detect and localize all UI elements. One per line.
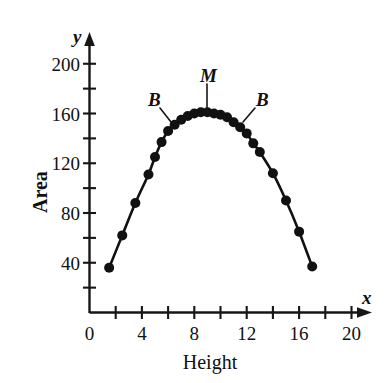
- x-axis: [90, 306, 373, 319]
- data-point: [117, 230, 127, 240]
- x-axis-variable-label: x: [362, 288, 372, 307]
- y-axis: [83, 32, 96, 313]
- x-axis-tick-label: 4: [122, 324, 162, 343]
- data-point: [307, 261, 317, 271]
- y-axis-tick-label: 160: [30, 105, 80, 124]
- data-point: [281, 196, 291, 206]
- y-axis-tick-label: 120: [30, 154, 80, 173]
- x-axis-tick-label: 0: [70, 324, 110, 343]
- data-point: [150, 152, 160, 162]
- y-axis-tick-label: 200: [30, 55, 80, 74]
- data-point: [130, 198, 140, 208]
- data-point: [255, 147, 265, 157]
- data-point: [268, 168, 278, 178]
- data-point: [242, 128, 252, 138]
- data-point: [248, 138, 258, 148]
- data-point: [294, 227, 304, 237]
- annotation-label-m: M: [200, 66, 217, 85]
- chart-figure: y x Area Height M B B 4080120160200 0481…: [0, 0, 386, 383]
- x-axis-tick-label: 16: [279, 324, 319, 343]
- annotation-label-b-left: B: [148, 90, 161, 109]
- leader-line-b-right: [243, 108, 255, 122]
- y-axis-tick-label: 80: [30, 204, 80, 223]
- y-axis-variable-label: y: [73, 27, 81, 46]
- x-axis-tick-label: 8: [174, 324, 214, 343]
- x-axis-tick-label: 12: [227, 324, 267, 343]
- leader-line-b-left: [160, 108, 171, 122]
- x-axis-title: Height: [155, 352, 265, 372]
- y-axis-tick-label: 40: [30, 254, 80, 273]
- data-curve: [109, 112, 312, 268]
- data-point: [157, 137, 167, 147]
- annotation-label-b-right: B: [256, 90, 269, 109]
- y-axis-arrowhead: [84, 32, 95, 46]
- data-point: [104, 263, 114, 273]
- x-axis-tick-label: 20: [332, 324, 372, 343]
- x-axis-arrowhead: [357, 307, 372, 318]
- data-point: [143, 169, 153, 179]
- data-points: [104, 107, 317, 272]
